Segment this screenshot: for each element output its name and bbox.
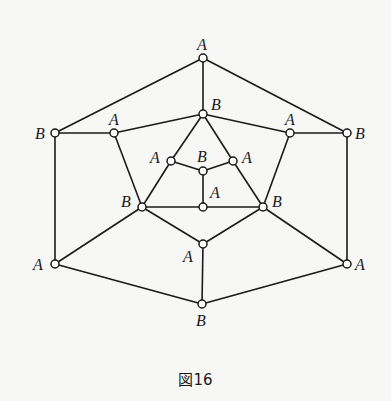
node-label: B bbox=[196, 312, 206, 329]
graph-edge bbox=[203, 114, 290, 133]
node-label: B bbox=[197, 148, 207, 165]
graph-node bbox=[259, 203, 267, 211]
node-label: A bbox=[196, 36, 207, 53]
graph-node bbox=[138, 203, 146, 211]
node-label: B bbox=[121, 193, 131, 210]
graph-node bbox=[51, 129, 59, 137]
node-label: B bbox=[355, 125, 365, 142]
graph-node bbox=[167, 157, 175, 165]
figure-caption: 図16 bbox=[0, 368, 391, 389]
graph-edge bbox=[55, 207, 142, 264]
graph-labels: ABBAABABABABAAAB bbox=[32, 36, 365, 329]
graph-edge bbox=[233, 161, 263, 207]
node-label: A bbox=[149, 149, 160, 166]
graph-edge bbox=[142, 207, 203, 244]
graph-node bbox=[199, 54, 207, 62]
graph-node bbox=[199, 240, 207, 248]
graph-edge bbox=[202, 244, 203, 304]
graph-edge bbox=[142, 161, 171, 207]
node-label: A bbox=[284, 111, 295, 128]
graph-node bbox=[51, 260, 59, 268]
graph-diagram: ABBAABABABABAAAB bbox=[0, 0, 391, 401]
node-label: B bbox=[272, 193, 282, 210]
graph-node bbox=[343, 260, 351, 268]
node-label: A bbox=[32, 256, 43, 273]
graph-edge bbox=[203, 114, 233, 161]
graph-node bbox=[198, 300, 206, 308]
node-label: B bbox=[35, 125, 45, 142]
graph-node bbox=[199, 110, 207, 118]
graph-node bbox=[199, 167, 207, 175]
graph-node bbox=[286, 129, 294, 137]
graph-edge bbox=[114, 114, 203, 133]
node-label: A bbox=[108, 111, 119, 128]
node-label: A bbox=[209, 184, 220, 201]
node-label: B bbox=[211, 96, 221, 113]
graph-edge bbox=[203, 58, 347, 133]
graph-edge bbox=[203, 207, 263, 244]
graph-nodes bbox=[51, 54, 351, 308]
node-label: A bbox=[241, 149, 252, 166]
graph-edges bbox=[55, 58, 347, 304]
graph-node bbox=[343, 129, 351, 137]
graph-node bbox=[229, 157, 237, 165]
graph-edge bbox=[202, 264, 347, 304]
graph-edge bbox=[263, 207, 347, 264]
graph-edge bbox=[55, 264, 202, 304]
graph-node bbox=[110, 129, 118, 137]
node-label: A bbox=[182, 248, 193, 265]
graph-node bbox=[199, 203, 207, 211]
graph-edge bbox=[55, 58, 203, 133]
node-label: A bbox=[354, 256, 365, 273]
